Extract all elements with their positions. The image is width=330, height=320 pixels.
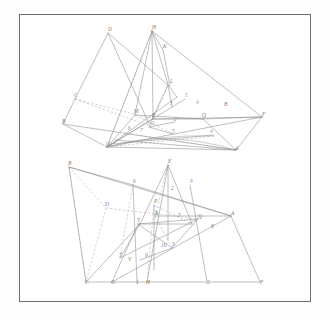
point-labels: DHKLCBEBFAGMOQ54326754BE632DPR5QA8T7V910… bbox=[62, 24, 266, 285]
point-label-H: H bbox=[151, 24, 157, 30]
point-label-G: G bbox=[111, 279, 115, 285]
point-label-D: D bbox=[104, 201, 109, 207]
point-label-A: A bbox=[234, 145, 239, 151]
point-label-6: 6 bbox=[128, 125, 131, 131]
drawing-sheet: DHKLCBEBFAGMOQ54326754BE632DPR5QA8T7V910… bbox=[0, 0, 330, 320]
point-label-B: B bbox=[224, 101, 228, 107]
point-label-F: F bbox=[261, 111, 266, 117]
point-label-5: 5 bbox=[178, 212, 181, 218]
point-label-4: 4 bbox=[196, 99, 199, 105]
point-label-E: E bbox=[151, 112, 156, 118]
point-label-A: A bbox=[230, 210, 235, 216]
point-label-2: 2 bbox=[207, 279, 210, 285]
point-label-5: 5 bbox=[185, 92, 188, 98]
point-label-F: F bbox=[259, 279, 264, 285]
point-label-E: E bbox=[167, 158, 172, 164]
point-label-S: S bbox=[172, 241, 175, 247]
point-label-P: P bbox=[153, 198, 158, 204]
point-label-L: L bbox=[169, 78, 173, 84]
point-label-1: 1 bbox=[136, 279, 139, 285]
point-label-9: 9 bbox=[145, 252, 148, 258]
point-label-7: 7 bbox=[119, 252, 122, 258]
point-label-Q: Q bbox=[198, 213, 202, 219]
point-label-8: 8 bbox=[211, 223, 214, 229]
point-label-3: 3 bbox=[189, 178, 193, 184]
point-label-6: 6 bbox=[133, 178, 136, 184]
construction-drawing: DHKLCBEBFAGMOQ54326754BE632DPR5QA8T7V910… bbox=[0, 0, 330, 320]
point-label-C: C bbox=[85, 279, 89, 285]
point-label-G: G bbox=[106, 141, 110, 147]
point-label-5: 5 bbox=[172, 128, 175, 134]
point-label-D: D bbox=[107, 26, 112, 32]
point-label-4: 4 bbox=[210, 128, 213, 134]
point-label-V: V bbox=[128, 256, 132, 262]
point-label-O: O bbox=[150, 120, 154, 126]
point-label-T: T bbox=[137, 217, 141, 223]
point-label-R: R bbox=[154, 210, 159, 216]
point-label-Q: Q bbox=[202, 112, 206, 118]
bottom-figure-lines bbox=[69, 165, 260, 282]
top-figure-arc bbox=[107, 136, 236, 150]
point-label-7: 7 bbox=[140, 127, 143, 133]
point-label-K: K bbox=[162, 43, 167, 49]
point-label-C: C bbox=[74, 92, 78, 98]
point-label-B: B bbox=[68, 160, 72, 166]
point-label-2: 2 bbox=[174, 116, 177, 122]
point-label-M: M bbox=[133, 108, 139, 114]
point-label-2: 2 bbox=[171, 185, 174, 191]
point-label-3: 3 bbox=[170, 100, 173, 106]
point-label-10: 10 bbox=[161, 242, 167, 248]
